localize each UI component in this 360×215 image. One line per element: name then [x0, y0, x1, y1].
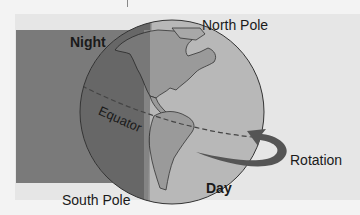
rotation-label: Rotation [290, 153, 342, 167]
south-pole-label: South Pole [62, 193, 131, 207]
north-pole-label: North Pole [202, 18, 268, 32]
night-label: Night [70, 35, 106, 49]
day-label: Day [206, 181, 232, 195]
earth-rotation-diagram [0, 0, 360, 215]
